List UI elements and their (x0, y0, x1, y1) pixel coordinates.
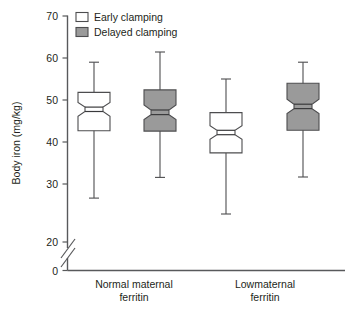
box-early-normal (78, 62, 110, 198)
chart-canvas: 70 60 50 40 30 20 0 Body iron (mg/kg) No… (0, 0, 353, 317)
y-axis: 70 60 50 40 30 20 0 Body iron (mg/kg) (10, 10, 75, 277)
box-shape (287, 83, 319, 130)
x-category-label-normal-line2: ferritin (119, 291, 148, 303)
legend: Early clamping Delayed clamping (76, 11, 178, 38)
legend-swatch-early-clamping (76, 13, 88, 22)
y-tick-label-40: 40 (46, 136, 58, 148)
y-tick-label-70: 70 (46, 10, 58, 22)
y-tick-label-60: 60 (46, 52, 58, 64)
y-axis-title: Body iron (mg/kg) (10, 102, 22, 185)
x-axis: Normal maternal ferritin Lowmaternal fer… (68, 271, 346, 304)
box-delayed-low (287, 62, 319, 177)
x-category-label-low-line1: Lowmaternal (235, 278, 295, 290)
legend-label-early-clamping: Early clamping (94, 11, 163, 23)
y-tick-label-20: 20 (46, 236, 58, 248)
x-category-label-normal-line1: Normal maternal (95, 278, 173, 290)
legend-swatch-delayed-clamping (76, 28, 88, 37)
boxplot-chart: 70 60 50 40 30 20 0 Body iron (mg/kg) No… (0, 0, 353, 317)
box-shape (210, 113, 242, 153)
legend-label-delayed-clamping: Delayed clamping (94, 26, 178, 38)
y-tick-label-0: 0 (52, 265, 58, 277)
box-delayed-normal (144, 52, 176, 177)
x-category-label-low-line2: ferritin (250, 291, 279, 303)
box-early-low (210, 79, 242, 214)
y-tick-label-50: 50 (46, 94, 58, 106)
y-tick-label-30: 30 (46, 178, 58, 190)
